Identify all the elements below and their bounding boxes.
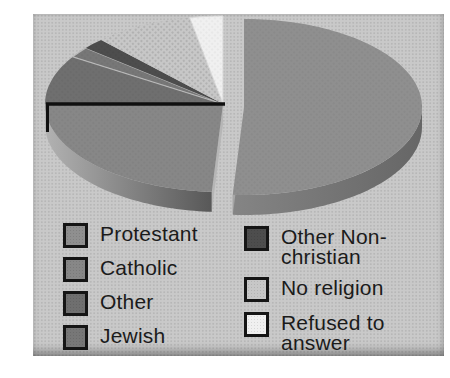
legend-item-jewish: Jewish [63,325,198,350]
legend-swatch-catholic [63,257,88,282]
legend-item-refused: Refused to answer [244,312,413,353]
legend-swatch-other-non-christian [244,226,269,251]
legend-label-protestant: Protestant [100,224,198,244]
legend-swatch-no-religion [244,277,269,302]
legend-label-refused: Refused to answer [281,313,413,353]
legend-label-jewish: Jewish [100,326,165,346]
legend-label-other-non-christian: Other Non-christian [281,227,413,267]
legend-item-other: Other [63,291,198,316]
legend-swatch-jewish [63,325,88,350]
legend-item-protestant: Protestant [63,223,198,248]
legend-label-no-religion: No religion [281,278,413,298]
legend-column-left: Protestant Catholic Other Jewish [63,223,198,350]
legend-column-right: Other Non-christian No religion Refused … [244,226,413,353]
legend-swatch-protestant [63,223,88,248]
figure: Protestant Catholic Other Jewish Other N… [0,0,450,378]
legend-swatch-other [63,291,88,316]
legend-swatch-refused [244,312,269,337]
legend-item-other-non-christian: Other Non-christian [244,226,413,267]
legend-label-catholic: Catholic [100,258,177,278]
legend-label-other: Other [100,292,154,312]
legend-item-catholic: Catholic [63,257,198,282]
legend-item-no-religion: No religion [244,277,413,302]
